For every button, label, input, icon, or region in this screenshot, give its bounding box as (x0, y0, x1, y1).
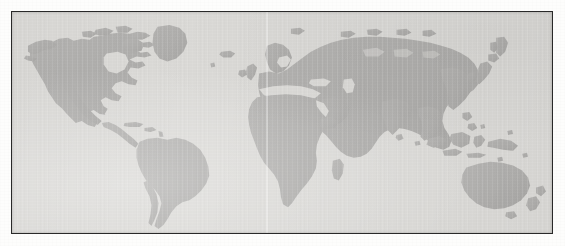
world-map-canvas (12, 12, 552, 233)
map-frame (11, 11, 553, 234)
world-map-figure (0, 0, 565, 246)
